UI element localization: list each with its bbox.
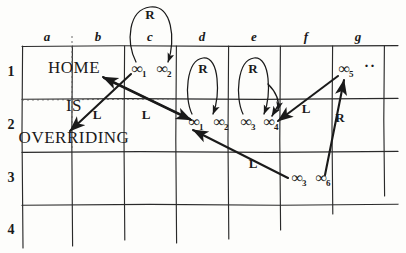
token-inf-1-row2: ∞1 bbox=[189, 114, 204, 132]
infinity-glyph: ∞ bbox=[316, 169, 326, 186]
infinity-glyph: ∞ bbox=[132, 60, 142, 77]
token-subscript: 5 bbox=[349, 69, 354, 79]
column-header-g: g bbox=[355, 30, 362, 43]
move-label-R-d: R bbox=[198, 62, 207, 75]
continuation-dots: ·· bbox=[364, 58, 376, 75]
infinity-glyph: ∞ bbox=[241, 113, 251, 130]
column-header-f: f bbox=[304, 30, 308, 43]
infinity-glyph: ∞ bbox=[189, 113, 199, 130]
token-subscript: 2 bbox=[224, 122, 229, 132]
token-inf-1-row1: ∞1 bbox=[132, 61, 147, 79]
move-label-L-mid: L bbox=[142, 108, 151, 121]
row-header-1: 1 bbox=[8, 65, 15, 79]
column-header-a: a bbox=[44, 30, 51, 43]
move-label-R-c: R bbox=[145, 8, 154, 21]
token-subscript: 6 bbox=[326, 178, 331, 188]
cell-is: IS bbox=[66, 97, 82, 114]
column-header-c: c bbox=[147, 30, 153, 43]
token-subscript: 4 bbox=[274, 122, 279, 132]
token-inf-2-row1: ∞2 bbox=[157, 61, 172, 79]
token-inf-6-row3: ∞6 bbox=[316, 170, 331, 188]
token-inf-2-row2: ∞2 bbox=[214, 114, 229, 132]
infinity-glyph: ∞ bbox=[157, 60, 167, 77]
move-label-L-lower: L bbox=[249, 157, 258, 170]
infinity-glyph: ∞ bbox=[292, 169, 302, 186]
arrow-transition-up-inf5 bbox=[325, 80, 344, 175]
column-header-e: e bbox=[251, 30, 257, 43]
column-header-b: b bbox=[95, 30, 102, 43]
token-subscript: 1 bbox=[199, 122, 204, 132]
infinity-glyph: ∞ bbox=[264, 113, 274, 130]
row-header-4: 4 bbox=[8, 223, 15, 237]
token-inf-3-row2: ∞3 bbox=[241, 114, 256, 132]
row-header-3: 3 bbox=[8, 171, 15, 185]
move-label-R-right: R bbox=[335, 111, 344, 124]
move-label-L-right: L bbox=[302, 102, 311, 115]
worksheet-canvas: a b c d e f g 1 2 3 4 HOME IS OVERRIDING… bbox=[0, 0, 406, 253]
move-label-L-left: L bbox=[93, 108, 102, 121]
token-inf-5-row1: ∞5 bbox=[339, 61, 354, 79]
infinity-glyph: ∞ bbox=[339, 60, 349, 77]
token-subscript: 3 bbox=[251, 122, 256, 132]
cell-home: HOME bbox=[48, 59, 100, 76]
arrow-transition-inf6-to-inf2 bbox=[193, 130, 288, 178]
token-subscript: 3 bbox=[302, 178, 307, 188]
token-inf-4-row2: ∞4 bbox=[264, 114, 279, 132]
row-header-2: 2 bbox=[8, 118, 15, 132]
token-inf-3-row3: ∞3 bbox=[292, 170, 307, 188]
column-header-d: d bbox=[199, 30, 206, 43]
move-label-R-e: R bbox=[248, 62, 257, 75]
infinity-glyph: ∞ bbox=[214, 113, 224, 130]
token-subscript: 2 bbox=[167, 69, 172, 79]
token-subscript: 1 bbox=[142, 69, 147, 79]
cell-overriding: OVERRIDING bbox=[19, 129, 130, 146]
